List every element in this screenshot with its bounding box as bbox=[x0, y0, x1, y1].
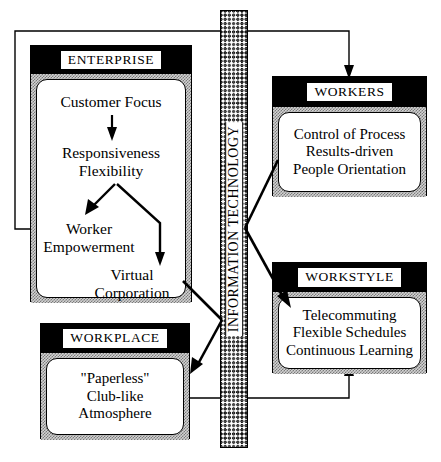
wire-it-to-workstyle bbox=[245, 228, 283, 297]
wire-workers-to-it bbox=[245, 160, 278, 228]
connector-layer-thick bbox=[0, 0, 441, 462]
arrowhead-into-workstyle-left bbox=[277, 290, 291, 308]
wire-it-to-workplace bbox=[198, 320, 222, 364]
wire-enterprise-to-it bbox=[183, 281, 222, 320]
diagram-canvas: ENTERPRISE Customer Focus Responsiveness… bbox=[0, 0, 441, 462]
